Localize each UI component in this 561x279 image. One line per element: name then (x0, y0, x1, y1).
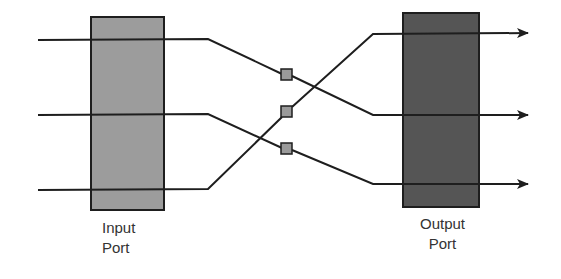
switch-node-2 (281, 106, 292, 117)
input-port-label-line1: Input (102, 218, 152, 238)
switch-node-3 (281, 143, 292, 154)
switch-node-1 (281, 69, 292, 80)
output-port-label-line1: Output (405, 214, 480, 234)
output-port-label: Output Port (405, 214, 480, 254)
output-port-box (403, 13, 479, 207)
input-port-label: Input Port (102, 218, 152, 258)
output-port-label-line2: Port (405, 234, 480, 254)
input-port-label-line2: Port (102, 238, 152, 258)
